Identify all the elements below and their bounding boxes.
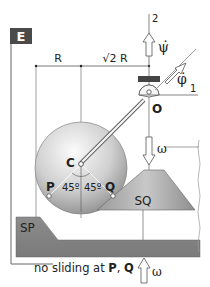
mechanism-diagram: E R √2 R SP SQ	[0, 0, 210, 287]
r-dimension-label: R	[54, 52, 62, 65]
panel-tag: E	[10, 28, 32, 44]
bearing-block	[138, 76, 160, 82]
psi-dot-label: ψ̇	[158, 39, 169, 55]
angle-left-label: 45º	[62, 182, 80, 193]
break-line	[198, 140, 200, 252]
angle-right-label: 45º	[84, 182, 102, 193]
sp-label: SP	[20, 221, 35, 235]
caption-p: P	[108, 261, 116, 275]
panel-tag-label: E	[17, 29, 26, 44]
pivot-o-label: O	[152, 102, 162, 116]
contact-q-label: Q	[105, 180, 115, 194]
omega-arrow-bottom: ω	[138, 258, 162, 283]
psi-dot-arrow: ψ̇	[143, 33, 169, 56]
caption: no sliding at P, Q	[34, 261, 134, 275]
caption-prefix: no sliding at	[34, 261, 108, 275]
phi-dot-label: φ̇	[177, 71, 187, 87]
axis-1-label: 1	[190, 83, 196, 94]
contact-p-label: P	[46, 180, 55, 194]
omega-bottom-label: ω	[152, 265, 162, 279]
center-c-label: C	[66, 156, 75, 170]
omega-top-label: ω	[157, 142, 167, 156]
sqrt2r-dimension-label: √2 R	[102, 52, 128, 65]
caption-q: Q	[124, 261, 134, 275]
left-support-sp: SP	[16, 217, 200, 257]
axis-2-label: 2	[152, 13, 158, 24]
caption-sep: ,	[117, 261, 124, 275]
sq-label: SQ	[134, 194, 151, 208]
